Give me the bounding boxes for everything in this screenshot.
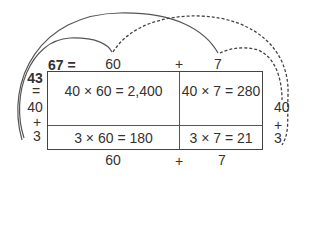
left-part2-label: 3 — [33, 129, 41, 143]
right-part1-label: 40 — [274, 100, 290, 114]
left-equals-label: = — [32, 84, 40, 98]
top-plus-label: + — [175, 57, 183, 71]
left-part1-label: 40 — [27, 100, 43, 114]
top-part2-label: 7 — [214, 57, 222, 71]
area-model-grid: 40 × 60 = 2,400 40 × 7 = 280 3 × 60 = 18… — [47, 71, 263, 150]
cell-top-right: 40 × 7 = 280 — [180, 84, 262, 98]
bottom-part1-label: 60 — [105, 153, 121, 167]
top-total-label: 67 = — [48, 58, 76, 72]
bottom-part2-label: 7 — [218, 153, 226, 167]
left-plus-label: + — [33, 115, 41, 129]
horizontal-divider — [48, 125, 262, 126]
bottom-plus-label: + — [175, 154, 183, 168]
cell-bottom-left: 3 × 60 = 180 — [48, 131, 179, 145]
cell-bottom-right: 3 × 7 = 21 — [180, 131, 262, 145]
cell-top-left: 40 × 60 = 2,400 — [48, 84, 179, 98]
top-part1-label: 60 — [105, 57, 121, 71]
right-part2-label: 3 — [274, 131, 282, 145]
